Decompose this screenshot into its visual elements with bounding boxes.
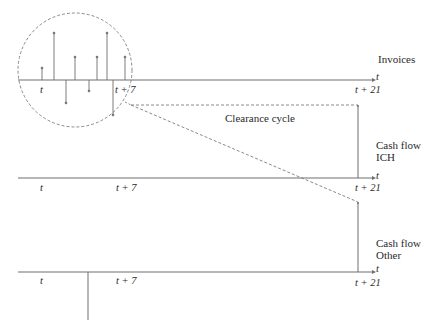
invoices-tick-t21: t + 21: [355, 84, 381, 96]
clearance-cycle-label: Clearance cycle: [225, 112, 295, 124]
other-label-line2: Other: [376, 249, 401, 261]
invoices-tick-t7: t + 7: [115, 84, 136, 96]
other-axis-var: t: [376, 263, 379, 275]
other-tick-t7: t + 7: [116, 275, 137, 287]
invoice-stems: [41, 32, 126, 116]
ich-label-line2: ICH: [376, 151, 395, 163]
ich-tick-t: t: [40, 182, 43, 194]
ich-label-line1: Cash flow: [376, 139, 421, 151]
ich-axis-var: t: [376, 170, 379, 182]
other-label-line1: Cash flow: [376, 237, 421, 249]
ich-tick-t21: t + 21: [355, 182, 381, 194]
invoices-axis-var: t: [376, 71, 379, 83]
ich-tick-t7: t + 7: [116, 182, 137, 194]
invoices-tick-t: t: [40, 84, 43, 96]
circle-connector-dashed: [125, 102, 131, 105]
invoices-label: Invoices: [378, 53, 415, 65]
other-tick-t21: t + 21: [355, 277, 381, 289]
other-tick-t: t: [40, 275, 43, 287]
